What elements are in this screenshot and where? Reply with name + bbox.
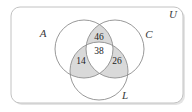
region-count-a-and-c: 46 [94,32,104,42]
region-count-a-and-l: 14 [76,56,86,66]
set-label-universe: U [169,8,178,20]
venn-diagram-figure: 46 38 14 26 A C L U [0,0,192,112]
region-count-c-and-l: 26 [112,56,122,66]
venn-diagram-canvas: 46 38 14 26 A C L U [0,0,192,112]
set-label-c: C [145,28,153,40]
region-count-a-and-c-and-l: 38 [94,46,104,56]
set-label-l: L [121,89,128,101]
set-label-a: A [39,27,47,39]
